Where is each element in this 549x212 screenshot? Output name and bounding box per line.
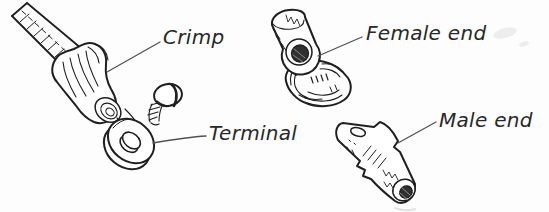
male-end-label: Male end: [439, 109, 533, 132]
male-end-leader-line: [398, 122, 436, 143]
wire-hatching: [20, 14, 64, 57]
screw-illustration: [148, 82, 184, 125]
crimp-terminal-diagram: Crimp Terminal Female end Male end: [0, 0, 549, 212]
female-end-illustration: [272, 10, 351, 106]
wire-edge: [12, 16, 60, 64]
crimp-leader-line: [107, 42, 160, 72]
male-end-illustration: [336, 122, 419, 205]
wire-edge: [27, 3, 82, 49]
female-end-label: Female end: [366, 22, 486, 45]
screw-head: [152, 82, 183, 109]
paper-smudge: [518, 40, 529, 48]
paper-smudge: [492, 25, 518, 41]
crimp-sleeve-illustration: [52, 43, 126, 127]
female-end-leader-line: [318, 37, 362, 56]
terminal-label: Terminal: [209, 122, 297, 145]
paper-smudge: [395, 208, 415, 210]
terminal-leader-line: [153, 136, 206, 143]
crimp-label: Crimp: [163, 26, 224, 49]
